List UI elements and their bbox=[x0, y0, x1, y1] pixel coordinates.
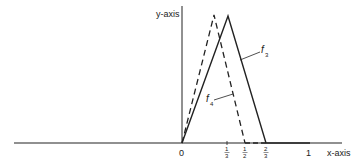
function-diagram: y-axis x-axis 0 1 3 1 2 2 3 1 f 3 f 4 bbox=[0, 0, 358, 166]
tick-label-2-3-den: 3 bbox=[264, 153, 268, 159]
diagram-svg: y-axis x-axis 0 1 3 1 2 2 3 1 f 3 f 4 bbox=[0, 0, 358, 166]
f3-subscript: 3 bbox=[265, 52, 269, 58]
tick-label-2-3-num: 2 bbox=[264, 146, 268, 152]
tick-label-1-3-num: 1 bbox=[225, 146, 229, 152]
f4-subscript: 4 bbox=[210, 101, 214, 107]
f3-leader bbox=[240, 52, 260, 60]
tick-label-0: 0 bbox=[179, 148, 184, 158]
f4-curve bbox=[182, 15, 245, 143]
tick-label-1-2-den: 2 bbox=[243, 153, 247, 159]
y-axis-label: y-axis bbox=[156, 9, 180, 19]
tick-label-1-3-den: 3 bbox=[225, 153, 229, 159]
f3-curve bbox=[182, 16, 266, 143]
f4-leader bbox=[214, 94, 233, 100]
tick-label-1: 1 bbox=[306, 148, 311, 158]
tick-label-1-2-num: 1 bbox=[243, 146, 247, 152]
x-axis-label: x-axis bbox=[327, 148, 351, 158]
